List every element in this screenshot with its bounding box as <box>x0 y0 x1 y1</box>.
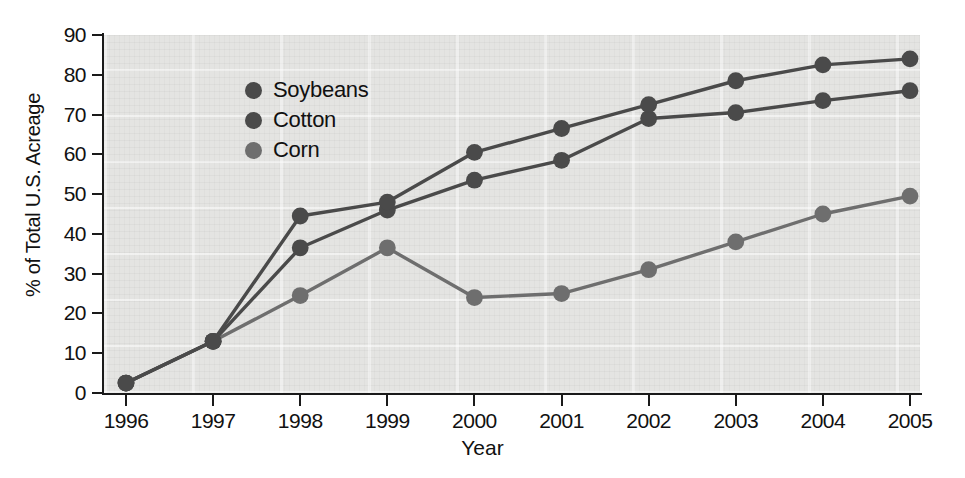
data-point-corn-2003 <box>727 233 744 250</box>
legend-marker-corn <box>245 142 262 159</box>
x-tick-label-1997: 1997 <box>178 409 248 432</box>
legend-marker-cotton <box>245 112 262 129</box>
y-tick-50 <box>92 193 104 195</box>
x-tick-1998 <box>299 395 301 406</box>
x-tick-label-1999: 1999 <box>352 409 422 432</box>
data-point-corn-2001 <box>553 285 570 302</box>
legend-marker-soybeans <box>245 82 262 99</box>
y-tick-label-text: 90 <box>52 24 86 45</box>
data-point-cotton-2000 <box>466 172 483 189</box>
data-point-corn-2005 <box>902 188 919 205</box>
y-tick-90 <box>92 34 104 36</box>
x-tick-2004 <box>822 395 824 406</box>
y-tick-60 <box>92 153 104 155</box>
x-tick-label-2002: 2002 <box>614 409 684 432</box>
data-point-corn-2002 <box>640 261 657 278</box>
data-point-soybeans-2002 <box>640 96 657 113</box>
y-tick-label-70: 70 <box>42 104 86 125</box>
y-tick-label-60: 60 <box>42 143 86 164</box>
y-axis-title: % of Total U.S. Acreage <box>23 45 43 345</box>
y-tick-label-80: 80 <box>42 64 86 85</box>
x-tick-1996 <box>125 395 127 406</box>
x-tick-1999 <box>386 395 388 406</box>
x-tick-1997 <box>212 395 214 406</box>
legend-label-soybeans: Soybeans <box>273 79 368 101</box>
y-tick-label-text: 40 <box>52 223 86 244</box>
data-point-cotton-2005 <box>902 82 919 99</box>
chart-figure: Soybeans Cotton Corn 0102030405060708090… <box>0 0 965 478</box>
x-tick-2002 <box>648 395 650 406</box>
plot-area: Soybeans Cotton Corn <box>104 35 920 393</box>
x-tick-2003 <box>735 395 737 406</box>
data-point-soybeans-2005 <box>902 50 919 67</box>
x-tick-label-1998: 1998 <box>265 409 335 432</box>
data-point-cotton-2003 <box>727 104 744 121</box>
y-tick-label-text: 50 <box>52 183 86 204</box>
y-tick-label-90: 90 <box>42 24 86 45</box>
y-tick-label-20: 20 <box>42 302 86 323</box>
x-axis-line <box>102 393 922 395</box>
y-tick-0 <box>92 392 104 394</box>
data-point-corn-1999 <box>379 239 396 256</box>
data-point-soybeans-1998 <box>292 208 309 225</box>
data-point-soybeans-2000 <box>466 144 483 161</box>
y-axis-line <box>102 33 104 395</box>
y-tick-10 <box>92 352 104 354</box>
data-point-corn-2000 <box>466 289 483 306</box>
y-tick-80 <box>92 74 104 76</box>
y-tick-label-text: 30 <box>52 263 86 284</box>
data-point-soybeans-2003 <box>727 72 744 89</box>
x-tick-label-2000: 2000 <box>439 409 509 432</box>
data-point-soybeans-1999 <box>379 194 396 211</box>
data-point-soybeans-2004 <box>814 56 831 73</box>
x-tick-2005 <box>909 395 911 406</box>
y-tick-70 <box>92 114 104 116</box>
series-layer <box>104 35 920 393</box>
data-point-corn-2004 <box>814 206 831 223</box>
x-axis-title: Year <box>0 437 965 459</box>
y-tick-label-text: 70 <box>52 104 86 125</box>
data-point-soybeans-1996 <box>118 375 135 392</box>
x-tick-2001 <box>561 395 563 406</box>
x-tick-2000 <box>473 395 475 406</box>
y-tick-label-10: 10 <box>42 342 86 363</box>
x-tick-label-2005: 2005 <box>875 409 945 432</box>
series-line-corn <box>126 196 910 383</box>
legend-item-corn: Corn <box>245 135 455 165</box>
y-tick-label-text: 0 <box>52 382 86 403</box>
legend: Soybeans Cotton Corn <box>245 75 455 165</box>
data-point-cotton-1998 <box>292 239 309 256</box>
x-tick-label-2001: 2001 <box>527 409 597 432</box>
data-point-cotton-2001 <box>553 152 570 169</box>
data-point-soybeans-2001 <box>553 120 570 137</box>
legend-item-cotton: Cotton <box>245 105 455 135</box>
y-tick-20 <box>92 312 104 314</box>
x-tick-label-1996: 1996 <box>91 409 161 432</box>
y-tick-label-30: 30 <box>42 263 86 284</box>
series-line-cotton <box>126 91 910 383</box>
y-tick-label-40: 40 <box>42 223 86 244</box>
y-tick-label-text: 10 <box>52 342 86 363</box>
y-tick-label-text: 80 <box>52 64 86 85</box>
legend-item-soybeans: Soybeans <box>245 75 455 105</box>
series-line-soybeans <box>126 59 910 383</box>
x-tick-label-2004: 2004 <box>788 409 858 432</box>
data-point-corn-1998 <box>292 287 309 304</box>
data-point-cotton-2004 <box>814 92 831 109</box>
y-tick-label-text: 20 <box>52 302 86 323</box>
y-tick-label-text: 60 <box>52 143 86 164</box>
x-tick-label-2003: 2003 <box>701 409 771 432</box>
y-tick-30 <box>92 273 104 275</box>
y-tick-label-0: 0 <box>42 382 86 403</box>
data-point-soybeans-1997 <box>205 333 222 350</box>
legend-label-cotton: Cotton <box>273 109 336 131</box>
y-tick-label-50: 50 <box>42 183 86 204</box>
legend-label-corn: Corn <box>273 139 320 161</box>
y-tick-40 <box>92 233 104 235</box>
